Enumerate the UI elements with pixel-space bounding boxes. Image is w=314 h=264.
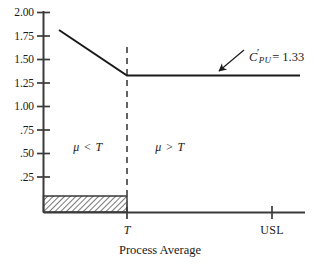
y-tick-label-1-75: 1.75 (4, 31, 34, 43)
x-tick-label-target: T (112, 224, 142, 236)
cpu-subscript: PU (259, 55, 271, 65)
x-axis-title: Process Average (100, 244, 220, 257)
y-tick-label-1-25: 1.25 (4, 78, 34, 90)
annotation-arrow (219, 50, 244, 71)
cpu-equals-value: = 1.33 (272, 50, 304, 64)
y-tick-label-1-00: 1.00 (4, 101, 34, 113)
y-tick-label-2-00: 2.00 (4, 7, 34, 19)
cpu-process-average-chart: 2.00 1.75 1.50 1.25 1.00 .75 .50 .25 T U… (0, 0, 314, 264)
region-label-mu-less-than-target: μ < T (58, 141, 118, 153)
cpu-annotation-label: C′PU= 1.33 (249, 47, 304, 65)
y-tick-label-0-75: .75 (4, 125, 34, 137)
hatched-band (44, 196, 128, 212)
y-tick-label-0-25: .25 (4, 172, 34, 184)
y-tick-label-0-50: .50 (4, 148, 34, 160)
x-tick-label-usl: USL (252, 224, 292, 236)
region-label-mu-greater-than-target: μ > T (140, 141, 200, 153)
y-tick-label-1-50: 1.50 (4, 54, 34, 66)
